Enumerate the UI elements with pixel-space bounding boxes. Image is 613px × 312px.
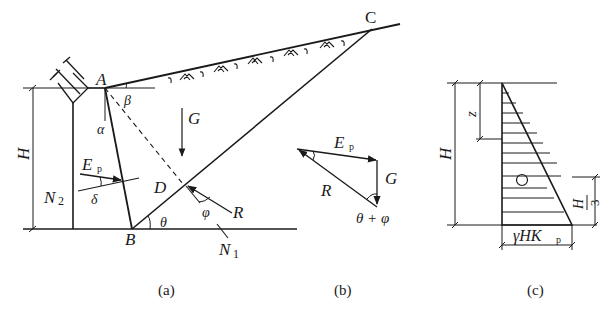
label-theta: θ: [160, 215, 167, 230]
label-c-H: H: [436, 146, 455, 161]
delta-arc: [100, 177, 101, 186]
svg-text:H: H: [571, 198, 586, 210]
pressure-hatching: [502, 93, 564, 212]
label-delta: δ: [91, 192, 98, 207]
label-N2: N 2: [43, 188, 64, 208]
svg-text:2: 2: [58, 194, 64, 208]
theta-arc: [148, 216, 150, 229]
label-b-G: G: [385, 169, 397, 188]
caption-c: (c): [527, 282, 544, 299]
svg-text:p: p: [556, 234, 561, 245]
label-D: D: [153, 178, 167, 197]
label-c-base: γHK p: [513, 227, 561, 245]
beta-arc: [126, 83, 127, 88]
label-A: A: [95, 70, 107, 89]
ground-surface: [105, 24, 400, 88]
label-b-R: R: [320, 181, 332, 200]
panel-a-labels: A B C D G R β α θ φ δ E p N 2 N 1 H (a): [14, 8, 376, 299]
label-c-H-over-3: H 3: [571, 195, 602, 210]
svg-text:N: N: [43, 188, 57, 207]
label-C: C: [365, 8, 376, 27]
svg-text:N: N: [218, 240, 232, 259]
wall-back-face-AB: [105, 88, 132, 229]
caption-a: (a): [158, 282, 175, 299]
earth-pressure-diagram: A B C D G R β α θ φ δ E p N 2 N 1 H (a): [0, 0, 613, 312]
panel-a: [23, 24, 400, 238]
panel-b: [297, 149, 377, 207]
normal-line-N1: [217, 224, 228, 238]
label-c-z: z: [463, 111, 479, 118]
label-b-Ep: E p: [333, 133, 354, 152]
svg-text:p: p: [349, 141, 354, 152]
svg-text:E: E: [81, 155, 93, 174]
label-Ep: E p: [81, 155, 102, 174]
label-phi: φ: [202, 205, 210, 220]
label-theta-plus-phi: θ + φ: [356, 210, 389, 226]
pressure-triangle: [502, 83, 572, 225]
panel-c-labels: H z H 3 γHK p (c): [436, 111, 602, 299]
svg-text:p: p: [97, 163, 102, 174]
label-B: B: [125, 230, 136, 249]
triangle-angle-arc: [313, 151, 315, 160]
theta-phi-arc: [367, 194, 377, 199]
svg-text:1: 1: [233, 247, 239, 261]
label-height-H: H: [14, 146, 33, 161]
label-N1: N 1: [218, 240, 239, 261]
label-R: R: [232, 203, 244, 222]
dashed-line-AD: [105, 88, 183, 184]
svg-text:3: 3: [587, 200, 602, 207]
wall-normal-line: [78, 178, 139, 191]
svg-text:E: E: [333, 133, 345, 152]
label-beta: β: [123, 93, 131, 108]
force-R-arrow: [188, 186, 232, 213]
svg-text:γHK: γHK: [513, 227, 543, 245]
panel-c: [447, 80, 600, 250]
label-G: G: [188, 109, 200, 128]
label-alpha: α: [97, 122, 105, 137]
ground-hatching: [168, 41, 344, 83]
caption-b: (b): [334, 282, 352, 299]
